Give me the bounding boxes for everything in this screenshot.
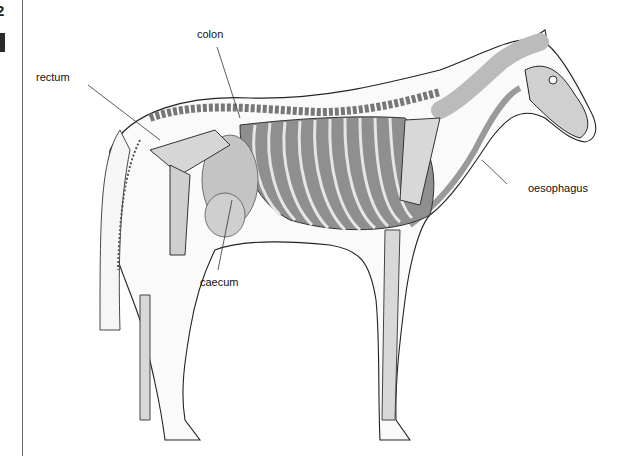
label-rectum: rectum [36,71,70,83]
hind-leg-bones [140,295,150,420]
horse-anatomy-diagram [0,0,628,456]
label-colon: colon [197,28,223,40]
front-leg-bones [382,230,400,420]
caecum-mass [205,193,245,237]
label-oesophagus: oesophagus [528,182,588,194]
label-caecum: caecum [200,276,239,288]
eye-socket [549,76,557,84]
